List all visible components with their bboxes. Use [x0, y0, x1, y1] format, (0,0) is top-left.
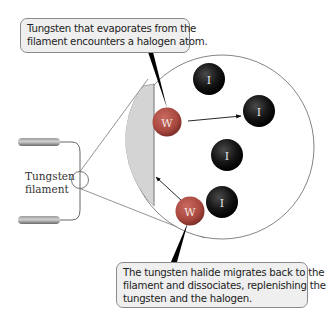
- halogen-atom: I: [211, 139, 243, 171]
- svg-text:W: W: [184, 206, 196, 219]
- tungsten-atom-evaporated: W: [153, 108, 182, 137]
- halogen-atom: I: [193, 63, 225, 95]
- svg-text:I: I: [220, 197, 224, 210]
- label-line: Tungsten: [25, 170, 75, 183]
- callout-line: tungsten and the halogen.: [123, 292, 301, 305]
- tungsten-atom-halide: W: [176, 197, 205, 226]
- halogen-atom-bonded: I: [206, 186, 238, 218]
- svg-text:I: I: [257, 106, 261, 119]
- callout-line: filament encounters a halogen atom.: [27, 35, 183, 48]
- callout-line: Tungsten that evaporates from the: [27, 22, 183, 35]
- filament-lead-bottom: [18, 216, 60, 224]
- callout-migration: The tungsten halide migrates back to the…: [116, 262, 308, 308]
- svg-text:W: W: [161, 117, 173, 130]
- svg-text:I: I: [225, 150, 229, 163]
- callout-evaporation: Tungsten that evaporates from the filame…: [20, 18, 190, 53]
- label-line: filament: [25, 183, 75, 196]
- tungsten-filament-label: Tungsten filament: [25, 170, 75, 196]
- callout-line: filament and dissociates, replenishing t…: [123, 279, 301, 292]
- filament-lead-top: [18, 138, 60, 146]
- halogen-atom: I: [243, 95, 275, 127]
- callout-line: The tungsten halide migrates back to the: [123, 266, 301, 279]
- svg-text:I: I: [207, 74, 211, 87]
